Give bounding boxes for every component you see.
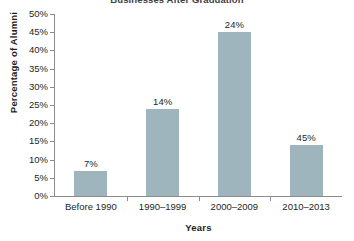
bar-value-label: 45% — [270, 132, 342, 143]
x-axis-title: Years — [55, 222, 342, 233]
y-axis-tick-mark — [50, 160, 54, 161]
bar — [74, 171, 107, 196]
y-axis-tick-label: 0% — [14, 191, 48, 201]
y-axis-tick-label: 30% — [14, 82, 48, 92]
bar-chart: Businesses After Graduation Percentage o… — [0, 0, 354, 241]
y-axis-tick-labels: 50%45%40%35%30%25%20%15%10%5%0% — [14, 14, 48, 196]
x-axis-tick-label: 2000–2009 — [199, 201, 271, 212]
x-axis-tick-labels: Before 19901990–19992000–20092010–2013 — [55, 201, 342, 217]
y-axis-tick-mark — [50, 50, 54, 51]
x-axis-tick-label: 2010–2013 — [270, 201, 342, 212]
x-axis-tick-mark — [127, 197, 128, 201]
y-axis-tick-mark — [50, 87, 54, 88]
bar-group: 45% — [270, 14, 342, 196]
y-axis-tick-label: 5% — [14, 173, 48, 183]
bar — [290, 145, 323, 196]
y-axis-tick-mark — [50, 123, 54, 124]
y-axis-tick-label: 40% — [14, 45, 48, 55]
y-axis-tick-mark — [50, 196, 54, 197]
y-axis-tick-mark — [50, 141, 54, 142]
bar-group: 14% — [127, 14, 199, 196]
y-axis-tick-mark — [50, 105, 54, 106]
bar-value-label: 7% — [55, 158, 127, 169]
bar-value-label: 24% — [199, 19, 271, 30]
y-axis-tick-label: 20% — [14, 118, 48, 128]
x-axis-tick-mark — [270, 197, 271, 201]
x-axis-tick-mark — [199, 197, 200, 201]
y-axis-tick-label: 35% — [14, 64, 48, 74]
y-axis-tick-mark — [50, 14, 54, 15]
y-axis-tick-label: 10% — [14, 155, 48, 165]
y-axis-tick-label: 15% — [14, 136, 48, 146]
bar-group: 7% — [55, 14, 127, 196]
y-axis-tick-label: 45% — [14, 27, 48, 37]
bar-value-label: 14% — [127, 96, 199, 107]
bar — [146, 109, 179, 196]
x-axis-tick-label: Before 1990 — [55, 201, 127, 212]
y-axis-tick-mark — [50, 32, 54, 33]
plot-area: 7%14%24%45% — [55, 14, 342, 196]
y-axis-tick-mark — [50, 69, 54, 70]
y-axis-tick-mark — [50, 178, 54, 179]
x-axis-tick-label: 1990–1999 — [127, 201, 199, 212]
y-axis-tick-label: 50% — [14, 9, 48, 19]
bar-group: 24% — [199, 14, 271, 196]
chart-title: Businesses After Graduation — [0, 0, 354, 3]
bar — [218, 32, 251, 196]
y-axis-tick-label: 25% — [14, 100, 48, 110]
